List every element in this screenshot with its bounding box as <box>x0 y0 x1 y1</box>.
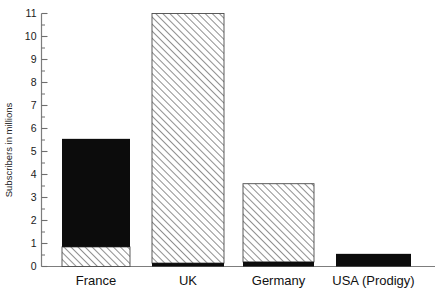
y-tick-label: 5 <box>31 145 37 157</box>
bar-usa-prodigy <box>336 254 411 267</box>
x-category-label: UK <box>179 273 197 288</box>
bar-segment-hatched <box>243 184 314 262</box>
bar-segment-solid <box>336 254 411 267</box>
x-category-label: France <box>76 273 116 288</box>
bar-segment-solid <box>62 139 130 247</box>
y-tick-label: 8 <box>31 76 37 88</box>
y-axis-ticks <box>42 14 48 267</box>
bar-segment-solid <box>243 262 314 267</box>
y-tick-label: 2 <box>31 214 37 226</box>
y-tick-label: 3 <box>31 191 37 203</box>
y-tick-label: 10 <box>25 30 37 42</box>
y-tick-label: 4 <box>31 168 37 180</box>
bar-segment-hatched <box>62 247 130 267</box>
y-tick-label: 9 <box>31 53 37 65</box>
y-axis-title: Subscribers in millions <box>3 103 14 198</box>
y-axis-tick-labels: 01234567891011 <box>25 7 37 272</box>
x-axis-category-labels: FranceUKGermanyUSA (Prodigy) <box>76 273 415 288</box>
y-axis-title-text: Subscribers in millions <box>3 103 14 198</box>
bar-chart: Subscribers in millions 01234567891011 F… <box>0 0 438 303</box>
x-category-label: USA (Prodigy) <box>332 273 414 288</box>
y-tick-label: 7 <box>31 99 37 111</box>
bar-france <box>62 139 130 267</box>
bar-germany <box>243 184 314 267</box>
bar-uk <box>152 14 224 267</box>
x-category-label: Germany <box>252 273 306 288</box>
bar-segment-solid <box>152 263 224 266</box>
y-tick-label: 6 <box>31 122 37 134</box>
y-tick-label: 11 <box>26 7 37 19</box>
y-tick-label: 1 <box>31 237 37 249</box>
chart-canvas: Subscribers in millions 01234567891011 F… <box>0 0 438 303</box>
bars-group <box>62 14 411 267</box>
bar-segment-hatched <box>152 14 224 264</box>
y-tick-label: 0 <box>31 260 37 272</box>
